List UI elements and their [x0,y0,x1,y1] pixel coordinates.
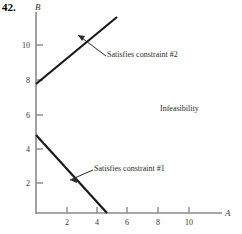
constraint-2-line [36,17,117,84]
figure-container: 42. [0,0,242,234]
x-tick-label-2: 2 [60,219,74,227]
y-tick-label-10: 10 [14,42,30,50]
x-tick-label-4: 4 [90,219,104,227]
constraint-1-line [36,135,107,213]
x-axis-title: A [225,209,231,218]
plot-canvas [0,0,242,234]
x-tick-label-10: 10 [182,219,196,227]
infeasibility-label: Infeasibility [160,105,199,113]
constraint-2-label: Satisfies constraint #2 [107,51,178,59]
y-axis-title: B [35,3,41,12]
x-tick-label-6: 6 [120,219,134,227]
y-tick-marks [36,45,43,183]
y-tick-label-6: 6 [14,112,30,120]
x-tick-marks [67,207,189,213]
constraint-1-label: Satisfies constraint #1 [94,165,165,173]
y-tick-label-2: 2 [14,180,30,188]
y-tick-label-8: 8 [14,77,30,85]
x-tick-label-8: 8 [151,219,165,227]
y-tick-label-4: 4 [14,146,30,154]
